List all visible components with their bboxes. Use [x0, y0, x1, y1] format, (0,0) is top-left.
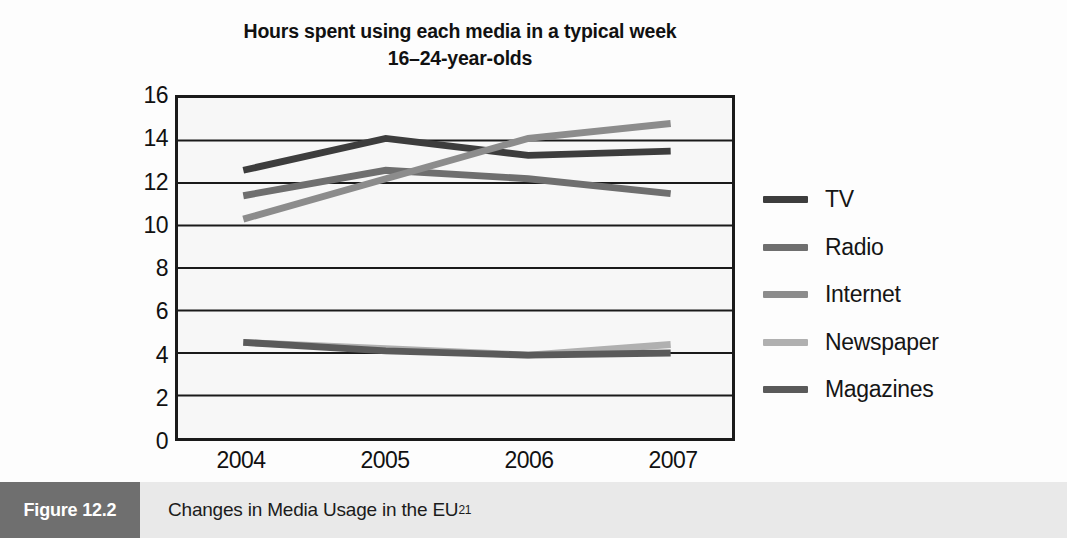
chart-legend: TVRadioInternetNewspaperMagazines: [763, 176, 1033, 414]
series-line-tv: [243, 138, 670, 170]
figure-caption-footnote: 21: [458, 503, 471, 517]
legend-item-newspaper[interactable]: Newspaper: [763, 319, 1033, 367]
y-tick-label: 10: [113, 211, 168, 238]
legend-swatch-icon: [763, 196, 808, 203]
legend-swatch-icon: [763, 386, 808, 393]
legend-label: Newspaper: [825, 329, 939, 356]
y-tick-label: 6: [113, 298, 168, 325]
line-chart-svg: [178, 98, 732, 438]
y-axis-label: Hours per week: [0, 0, 1, 155]
y-tick-label: 8: [113, 255, 168, 282]
figure-number-label: Figure 12.2: [24, 500, 117, 521]
y-tick-label: 12: [113, 168, 168, 195]
y-tick-label: 16: [113, 82, 168, 109]
legend-item-internet[interactable]: Internet: [763, 271, 1033, 319]
plot-area: [175, 95, 735, 441]
x-tick-label: 2004: [216, 447, 265, 474]
y-tick-label: 14: [113, 125, 168, 152]
legend-swatch-icon: [763, 291, 808, 298]
chart-title-line-2: 16–24-year-olds: [150, 45, 770, 72]
legend-item-radio[interactable]: Radio: [763, 224, 1033, 272]
legend-item-magazines[interactable]: Magazines: [763, 366, 1033, 414]
y-tick-label: 0: [113, 428, 168, 455]
x-tick-label: 2005: [360, 447, 409, 474]
x-axis-ticks: 2004200520062007: [175, 447, 735, 481]
figure-container: Hours spent using each media in a typica…: [0, 0, 1067, 538]
legend-item-tv[interactable]: TV: [763, 176, 1033, 224]
legend-label: Internet: [825, 281, 901, 308]
figure-number-box: Figure 12.2: [0, 482, 140, 538]
y-axis-ticks: 1614121086420: [110, 95, 168, 441]
x-tick-label: 2007: [648, 447, 697, 474]
chart-title-line-1: Hours spent using each media in a typica…: [150, 18, 770, 45]
chart-title: Hours spent using each media in a typica…: [150, 18, 770, 72]
figure-caption-main: Changes in Media Usage in the EU: [168, 499, 458, 521]
y-tick-label: 4: [113, 341, 168, 368]
series-lines: [243, 124, 670, 356]
x-tick-label: 2006: [504, 447, 553, 474]
legend-label: TV: [825, 186, 854, 213]
figure-caption-text: Changes in Media Usage in the EU21: [168, 482, 471, 538]
legend-swatch-icon: [763, 244, 808, 251]
y-tick-label: 2: [113, 384, 168, 411]
legend-label: Magazines: [825, 376, 934, 403]
figure-caption-bar: Figure 12.2 Changes in Media Usage in th…: [0, 482, 1067, 538]
legend-label: Radio: [825, 234, 884, 261]
legend-swatch-icon: [763, 339, 808, 346]
